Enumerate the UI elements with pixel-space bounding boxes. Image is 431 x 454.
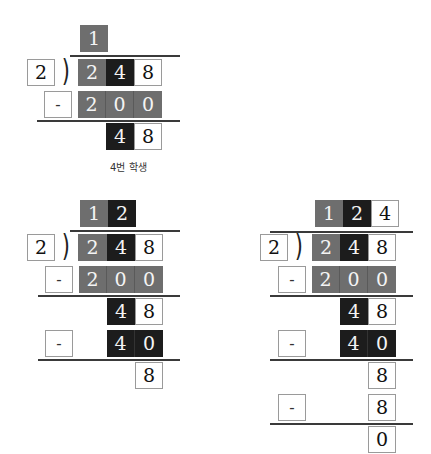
dividend-digit: 2 [78, 234, 107, 261]
division-bar [70, 55, 180, 57]
division-bracket-icon: ) [295, 231, 303, 261]
remainder-digit: 8 [368, 298, 396, 325]
division-bar [70, 230, 180, 232]
dividend-digit: 8 [134, 59, 162, 86]
dividend-digit: 8 [135, 234, 163, 261]
remainder-digit: 4 [107, 298, 135, 325]
subtraction-line [270, 359, 413, 361]
remainder-digit: 4 [106, 123, 134, 150]
subtraction-line [270, 423, 413, 425]
divisor-box: 2 [260, 234, 288, 261]
remainder-digit: 8 [134, 123, 162, 150]
subtrahend-digit: 2 [312, 266, 340, 293]
quotient-digit: 4 [371, 200, 399, 227]
subtrahend-digit: 4 [340, 330, 368, 357]
subtraction-line [37, 120, 180, 122]
subtraction-line [270, 295, 413, 297]
dividend-digit: 4 [106, 59, 134, 86]
student-caption: 4번 학생 [110, 159, 147, 174]
quotient-digit: 1 [315, 200, 343, 227]
dividend-digit: 2 [78, 59, 106, 86]
remainder-digit: 8 [135, 362, 163, 389]
subtrahend-digit: 0 [368, 266, 396, 293]
subtrahend-digit: 0 [368, 330, 396, 357]
subtrahend-digit: 8 [368, 394, 396, 421]
subtrahend-digit: 0 [340, 266, 368, 293]
remainder-digit: 8 [135, 298, 163, 325]
minus-sign: - [278, 330, 306, 357]
division-bracket-icon: ) [62, 231, 70, 261]
subtrahend-digit: 0 [107, 266, 135, 293]
subtrahend-digit: 0 [106, 91, 134, 118]
minus-sign: - [45, 266, 73, 293]
divisor-box: 2 [27, 234, 55, 261]
subtraction-line [38, 295, 180, 297]
minus-sign: - [45, 330, 73, 357]
subtrahend-digit: 0 [135, 330, 163, 357]
divisor-box: 2 [27, 59, 55, 86]
quotient-digit: 2 [108, 200, 136, 227]
dividend-digit: 4 [107, 234, 135, 261]
remainder-digit: 0 [368, 426, 396, 453]
subtrahend-digit: 2 [78, 91, 106, 118]
dividend-digit: 2 [312, 234, 340, 261]
subtrahend-digit: 4 [107, 330, 135, 357]
quotient-digit: 2 [343, 200, 371, 227]
quotient-digit: 1 [80, 200, 108, 227]
dividend-digit: 4 [340, 234, 368, 261]
minus-sign: - [44, 91, 72, 118]
minus-sign: - [278, 394, 306, 421]
subtrahend-digit: 0 [135, 266, 163, 293]
subtrahend-digit: 0 [134, 91, 162, 118]
quotient-digit: 1 [80, 25, 108, 52]
division-bracket-icon: ) [62, 56, 70, 86]
minus-sign: - [278, 266, 306, 293]
subtrahend-digit: 2 [79, 266, 107, 293]
remainder-digit: 8 [368, 362, 396, 389]
subtraction-line [38, 359, 180, 361]
dividend-digit: 8 [368, 234, 396, 261]
remainder-digit: 4 [340, 298, 368, 325]
division-bar [270, 231, 413, 233]
